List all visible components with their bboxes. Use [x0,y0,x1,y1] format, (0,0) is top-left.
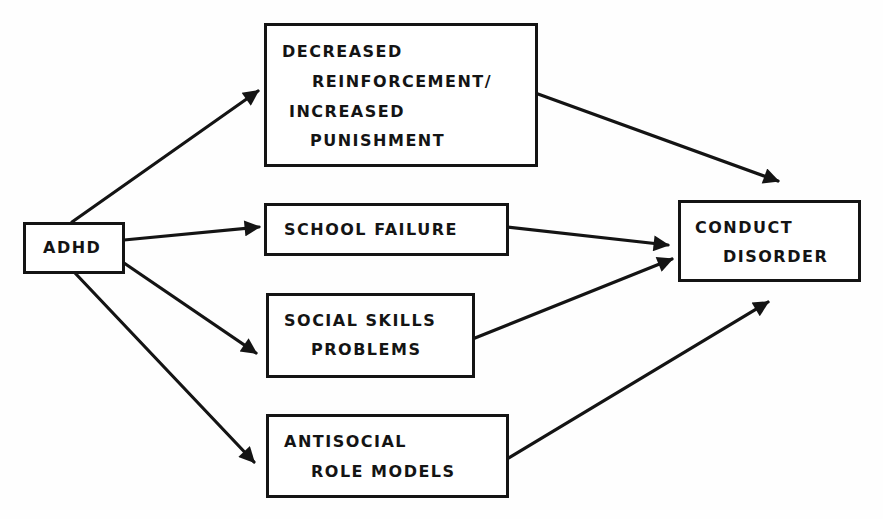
arrow-reinforcement-to-conduct [538,94,778,181]
arrow-social-to-conduct [475,259,672,338]
node-antisocial-line-2: ROLE MODELS [311,459,456,485]
arrow-school-to-conduct [507,227,668,245]
node-antisocial-role-models: ANTISOCIAL ROLE MODELS [266,414,509,498]
arrow-adhd-to-reinforcement [72,91,258,222]
arrow-antisocial-to-conduct [507,302,768,459]
node-antisocial-line-1: ANTISOCIAL [284,429,407,455]
arrow-adhd-to-social [124,263,256,353]
node-reinforcement-line-1: DECREASED [282,39,403,65]
arrow-adhd-to-school [124,227,259,240]
arrow-adhd-to-antisocial [75,273,254,462]
node-school-failure-label: SCHOOL FAILURE [284,217,458,243]
node-reinforcement-line-3: INCREASED [289,99,405,125]
node-conduct-line-2: DISORDER [723,244,828,270]
node-conduct-line-1: CONDUCT [695,215,793,241]
node-social-line-2: PROBLEMS [311,337,421,363]
node-conduct-disorder: CONDUCT DISORDER [678,200,861,282]
node-adhd-label: ADHD [43,235,101,261]
node-adhd: ADHD [23,222,125,274]
node-reinforcement-line-4: PUNISHMENT [310,128,445,154]
node-decreased-reinforcement: DECREASED REINFORCEMENT/ INCREASED PUNIS… [264,23,538,167]
node-school-failure: SCHOOL FAILURE [264,203,509,256]
node-reinforcement-line-2: REINFORCEMENT/ [312,69,492,95]
node-social-skills-problems: SOCIAL SKILLS PROBLEMS [266,293,475,378]
node-social-line-1: SOCIAL SKILLS [284,308,436,334]
